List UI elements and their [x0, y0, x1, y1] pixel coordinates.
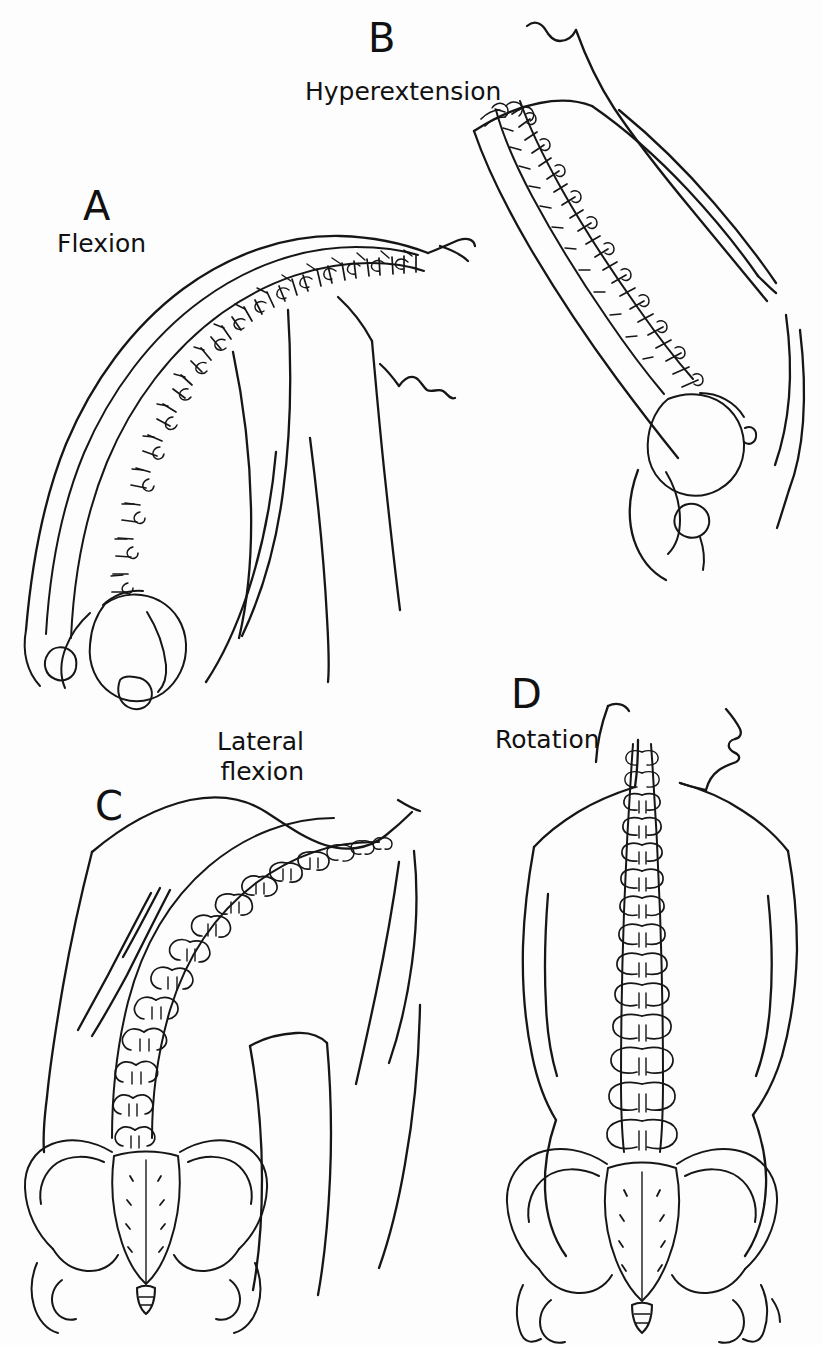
figure-root: A Flexion B Hyperextension C Lateral fle…	[0, 0, 823, 1345]
panel-letter-a: A	[83, 186, 111, 226]
panel-caption-hyperextension: Hyperextension	[305, 77, 501, 107]
panel-letter-c: C	[95, 786, 123, 826]
panel-caption-rotation: Rotation	[495, 725, 600, 755]
label-layer: A Flexion B Hyperextension C Lateral fle…	[0, 0, 823, 1345]
panel-letter-d: D	[511, 674, 542, 714]
panel-caption-flexion: Flexion	[57, 229, 146, 259]
panel-caption-lateral-flexion: Lateral flexion	[217, 727, 304, 786]
panel-letter-b: B	[368, 18, 396, 58]
